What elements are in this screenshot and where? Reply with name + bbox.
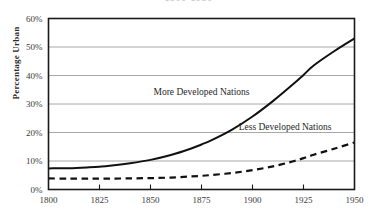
series-label: More Developed Nations <box>153 87 249 97</box>
x-axis-tick-label: 1925 <box>295 195 314 205</box>
chart-figure: 1800-1950 Percentage Urban 0%10%20%30%40… <box>0 0 377 221</box>
x-axis-tick-labels: 1800182518501875190019251950 <box>40 195 365 205</box>
series-label: Less Developed Nations <box>239 122 332 132</box>
y-axis-tick-labels: 0%10%20%30%40%50%60% <box>26 14 43 195</box>
x-axis-tick-label: 1850 <box>142 195 161 205</box>
y-axis-tick-label: 30% <box>26 99 43 109</box>
x-axis-tick-label: 1875 <box>193 195 212 205</box>
x-axis-tick-label: 1825 <box>91 195 110 205</box>
data-series <box>49 38 355 178</box>
x-axis-tick-label: 1950 <box>346 195 365 205</box>
series-annotations: More Developed NationsLess Developed Nat… <box>153 87 331 131</box>
x-axis-tick-label: 1900 <box>244 195 263 205</box>
y-axis-tick-label: 50% <box>26 42 43 52</box>
y-axis-tick-label: 10% <box>26 156 43 166</box>
y-axis-tick-label: 40% <box>26 71 43 81</box>
y-axis-tick-label: 0% <box>31 185 44 195</box>
y-axis-tick-label: 20% <box>26 128 43 138</box>
x-axis-tick-label: 1800 <box>40 195 59 205</box>
series-line <box>49 38 355 168</box>
y-axis-tick-label: 60% <box>26 14 43 24</box>
line-chart-plot: 0%10%20%30%40%50%60% 1800182518501875190… <box>0 0 377 221</box>
